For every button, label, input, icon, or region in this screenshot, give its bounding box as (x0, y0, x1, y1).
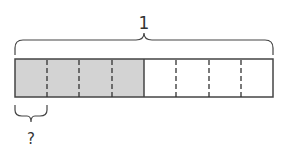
part-label: ? (27, 130, 35, 148)
tape-diagram: 1 ? (0, 0, 285, 156)
whole-brace (15, 33, 273, 55)
part-brace (15, 105, 47, 122)
whole-label: 1 (139, 13, 150, 33)
